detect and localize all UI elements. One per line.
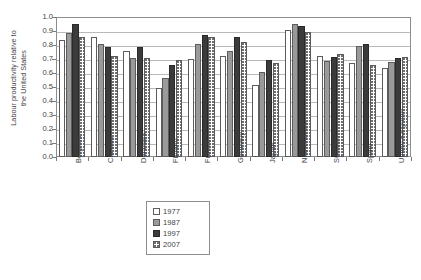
bar xyxy=(66,33,72,157)
bar xyxy=(123,51,129,157)
legend-item[interactable]: 1997 xyxy=(153,228,204,239)
x-tick-mark xyxy=(379,157,380,161)
x-tick-mark xyxy=(185,157,186,161)
bar xyxy=(98,44,104,157)
y-tick-label: 0.0 xyxy=(29,153,53,161)
y-tick-label: 0.4 xyxy=(29,97,53,105)
bar xyxy=(252,85,258,157)
y-tick-label: 0.9 xyxy=(29,27,53,35)
x-axis-label: Denmark xyxy=(140,132,147,163)
bar xyxy=(227,51,233,157)
x-tick-mark xyxy=(121,157,122,161)
x-tick-mark xyxy=(217,157,218,161)
bar xyxy=(259,72,265,157)
y-axis-title-line2: the United States xyxy=(19,50,28,106)
x-tick-mark xyxy=(250,157,251,161)
bar xyxy=(130,58,136,157)
bar-group xyxy=(252,17,279,157)
x-axis-label: Sweden xyxy=(333,136,340,163)
bar xyxy=(195,44,201,157)
y-tick-label: 0.7 xyxy=(29,55,53,63)
bar xyxy=(285,30,291,157)
x-tick-mark xyxy=(88,157,89,161)
y-tick-label: 0.5 xyxy=(29,83,53,91)
x-axis-label: France xyxy=(204,139,211,163)
legend-item[interactable]: 2007 xyxy=(153,239,204,250)
bar xyxy=(292,24,298,157)
x-tick-mark xyxy=(56,157,57,161)
swatch-1977-icon xyxy=(153,208,160,215)
x-tick-mark xyxy=(346,157,347,161)
x-axis-label: Japan xyxy=(269,142,276,163)
bar-group xyxy=(349,17,376,157)
bar xyxy=(220,56,226,157)
x-axis-label: Belgium xyxy=(75,136,82,163)
bar xyxy=(188,59,194,157)
bar-chart: Labour productivity relative to the Unit… xyxy=(0,0,421,280)
legend-item[interactable]: 1977 xyxy=(153,206,204,217)
bar xyxy=(91,37,97,157)
legend-label: 1987 xyxy=(163,219,180,227)
x-axis-label: Finland xyxy=(172,138,179,163)
y-tick-label: 0.8 xyxy=(29,41,53,49)
y-axis-title: Labour productivity relative to the Unit… xyxy=(9,0,37,158)
bar xyxy=(317,56,323,158)
bar xyxy=(388,62,394,157)
y-tick-label: 0.6 xyxy=(29,69,53,77)
bar xyxy=(356,46,362,157)
x-axis-label: United Kingdom xyxy=(398,109,405,163)
bar xyxy=(156,88,162,157)
bar xyxy=(59,40,65,157)
legend-item[interactable]: 1987 xyxy=(153,217,204,228)
y-tick-label: 0.3 xyxy=(29,111,53,119)
x-tick-mark xyxy=(153,157,154,161)
swatch-1997-icon xyxy=(153,230,160,237)
bar xyxy=(363,44,369,157)
legend-label: 1977 xyxy=(163,208,180,216)
bar-group xyxy=(188,17,215,157)
y-tick-label: 0.2 xyxy=(29,125,53,133)
x-axis-label: Germany xyxy=(237,132,244,163)
legend-label: 1997 xyxy=(163,230,180,238)
x-axis-label: Canada xyxy=(107,137,114,164)
swatch-2007-icon xyxy=(153,241,160,248)
x-axis-label: Netherlands xyxy=(301,122,308,163)
x-tick-mark xyxy=(282,157,283,161)
legend-label: 2007 xyxy=(163,241,180,249)
y-tick-label: 1.0 xyxy=(29,13,53,21)
x-tick-mark xyxy=(411,157,412,161)
chart-legend: 1977198719972007 xyxy=(146,201,210,255)
bar-group xyxy=(156,17,183,157)
bar xyxy=(162,78,168,157)
x-axis-label: Spain xyxy=(366,144,373,163)
bar xyxy=(382,68,388,157)
bar xyxy=(324,61,330,157)
y-axis-title-line1: Labour productivity relative to xyxy=(9,30,18,125)
bar xyxy=(349,63,355,157)
x-tick-mark xyxy=(314,157,315,161)
swatch-1987-icon xyxy=(153,219,160,226)
y-tick-label: 0.1 xyxy=(29,139,53,147)
